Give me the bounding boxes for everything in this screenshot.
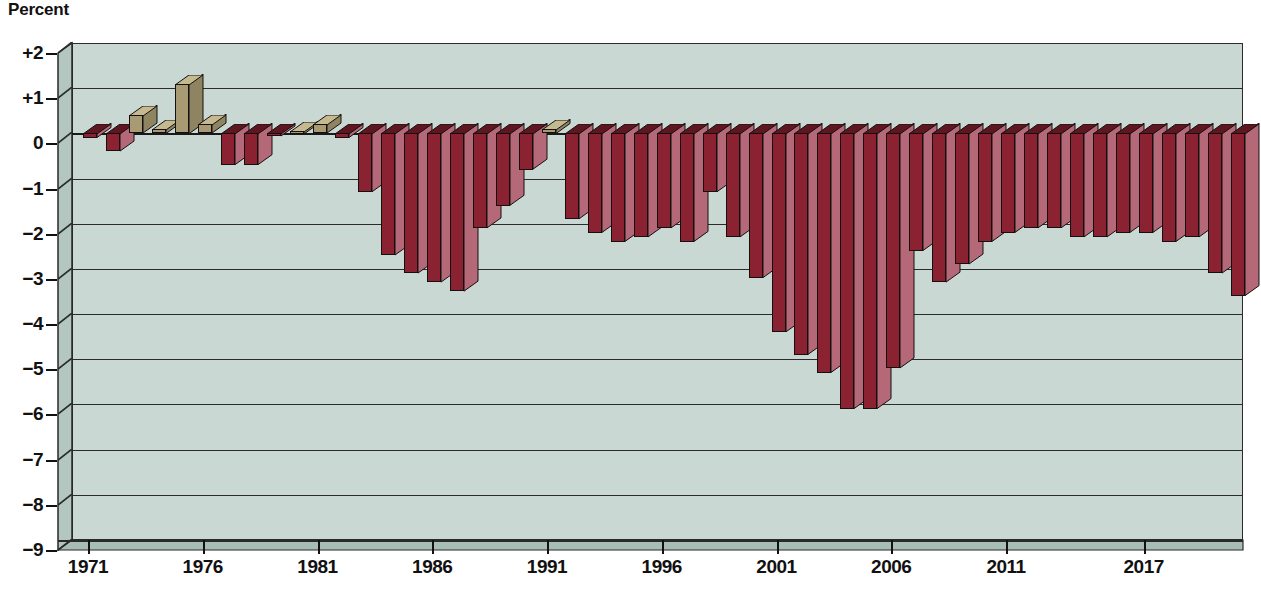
bar-2001[interactable] [772, 133, 786, 332]
bar-front-face [1185, 133, 1199, 237]
bar-front-face [496, 133, 510, 205]
bar-2019[interactable] [1185, 133, 1199, 237]
bar-1980[interactable] [290, 131, 304, 134]
bar-2020[interactable] [1208, 133, 1222, 273]
bar-2017[interactable] [1139, 133, 1153, 232]
bar-front-face [955, 133, 969, 264]
bar-2002[interactable] [794, 133, 808, 354]
bar-1974[interactable] [152, 129, 166, 134]
bar-front-face [175, 84, 189, 134]
bar-front-face [1093, 133, 1107, 237]
bar-1991[interactable] [542, 129, 556, 134]
bar-1971[interactable] [83, 133, 97, 138]
x-tick-1971 [88, 540, 90, 554]
bar-1995[interactable] [634, 133, 648, 237]
bar-1983[interactable] [358, 133, 372, 192]
bar-2004[interactable] [840, 133, 854, 409]
bar-1976[interactable] [198, 124, 212, 133]
bar-front-face [1208, 133, 1222, 273]
bar-1993[interactable] [588, 133, 602, 232]
bar-1982[interactable] [335, 133, 349, 138]
bar-front-face [1231, 133, 1245, 296]
bar-front-face [473, 133, 487, 228]
bar-1986[interactable] [427, 133, 441, 282]
bar-front-face [1139, 133, 1153, 232]
y-axis-label--5: −5 [0, 358, 43, 380]
y-tick--9 [46, 550, 57, 552]
y-axis-label--8: −8 [0, 494, 43, 516]
y-axis-label-2: +2 [0, 42, 43, 64]
bar-2009[interactable] [955, 133, 969, 264]
bar-1989[interactable] [496, 133, 510, 205]
bar-front-face [749, 133, 763, 278]
bar-2021[interactable] [1231, 133, 1245, 296]
bar-1999[interactable] [726, 133, 740, 237]
bar-1990[interactable] [519, 133, 533, 169]
x-tick-1976 [203, 540, 205, 554]
gridline-1 [72, 88, 1243, 89]
bar-1975[interactable] [175, 84, 189, 134]
bar-front-face [680, 133, 694, 241]
bar-1973[interactable] [129, 115, 143, 133]
bar-1981[interactable] [313, 124, 327, 133]
bar-front-face [106, 133, 120, 151]
bar-1998[interactable] [703, 133, 717, 192]
x-tick-2011 [1006, 540, 1008, 554]
bar-1992[interactable] [565, 133, 579, 219]
bar-front-face [817, 133, 831, 372]
bar-2016[interactable] [1116, 133, 1130, 232]
y-tick--3 [46, 279, 57, 281]
bar-front-face [427, 133, 441, 282]
y-tick-2 [46, 53, 57, 55]
x-axis-label-1986: 1986 [412, 556, 452, 578]
bar-1977[interactable] [221, 133, 235, 165]
bar-1994[interactable] [611, 133, 625, 241]
bar-front-face [221, 133, 235, 165]
bar-2010[interactable] [978, 133, 992, 241]
x-tick-1991 [547, 540, 549, 554]
bar-1997[interactable] [680, 133, 694, 241]
bar-2012[interactable] [1024, 133, 1038, 228]
y-tick-0 [46, 143, 57, 145]
bar-2008[interactable] [932, 133, 946, 282]
x-tick-2001 [777, 540, 779, 554]
bar-2018[interactable] [1162, 133, 1176, 241]
bar-front-face [703, 133, 717, 192]
x-axis-label-1981: 1981 [297, 556, 337, 578]
gridline--8 [72, 495, 1243, 496]
gridline-riser-0 [58, 132, 72, 142]
bar-front-face [932, 133, 946, 282]
gridline-riser--8 [58, 494, 72, 504]
bar-1985[interactable] [404, 133, 418, 273]
bar-2000[interactable] [749, 133, 763, 278]
bar-front-face [1024, 133, 1038, 228]
gridline--7 [72, 450, 1243, 451]
bar-1987[interactable] [450, 133, 464, 291]
gridline--6 [72, 404, 1243, 405]
bar-front-face [129, 115, 143, 133]
bar-front-face [1116, 133, 1130, 232]
bar-2014[interactable] [1070, 133, 1084, 237]
bar-1979[interactable] [267, 133, 281, 136]
bar-front-face [1070, 133, 1084, 237]
bar-front-face [335, 133, 349, 138]
bar-front-face [657, 133, 671, 228]
bar-2005[interactable] [863, 133, 877, 409]
bar-front-face [794, 133, 808, 354]
bar-1996[interactable] [657, 133, 671, 228]
bar-front-face [404, 133, 418, 273]
bar-2003[interactable] [817, 133, 831, 372]
bar-2011[interactable] [1001, 133, 1015, 232]
bar-2006[interactable] [886, 133, 900, 368]
y-axis-label--4: −4 [0, 313, 43, 335]
bar-2015[interactable] [1093, 133, 1107, 237]
bar-2013[interactable] [1047, 133, 1061, 228]
bar-1978[interactable] [244, 133, 258, 165]
bar-1984[interactable] [381, 133, 395, 255]
bar-front-face [840, 133, 854, 409]
bar-2007[interactable] [909, 133, 923, 250]
gridline-riser--4 [58, 313, 72, 323]
bar-front-face [611, 133, 625, 241]
bar-1988[interactable] [473, 133, 487, 228]
bar-1972[interactable] [106, 133, 120, 151]
